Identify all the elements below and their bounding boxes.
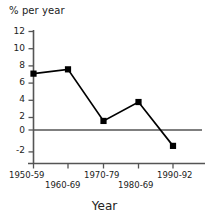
x-tick-label-1980-69: 1980-69 [118, 181, 154, 190]
data-point-1950-59 [30, 71, 36, 77]
data-point-1960-69 [65, 66, 71, 72]
chart-container: % per year 12 10 8 6 4 2 0 -2 [0, 0, 209, 221]
data-point-1970-79 [100, 118, 106, 124]
data-point-1990-92 [170, 143, 176, 149]
data-point-1980-69 [135, 99, 141, 105]
x-tick-label-1970-79: 1970-79 [84, 171, 120, 180]
x-tick-label-1960-69: 1960-69 [45, 181, 81, 190]
plot-area [0, 0, 209, 221]
data-point-markers [30, 66, 176, 149]
x-tick-label-1950-59: 1950-59 [9, 171, 45, 180]
x-axis-title: Year [0, 199, 209, 213]
x-tick-label-1990-92: 1990-92 [157, 171, 193, 180]
data-series-line [34, 69, 174, 146]
